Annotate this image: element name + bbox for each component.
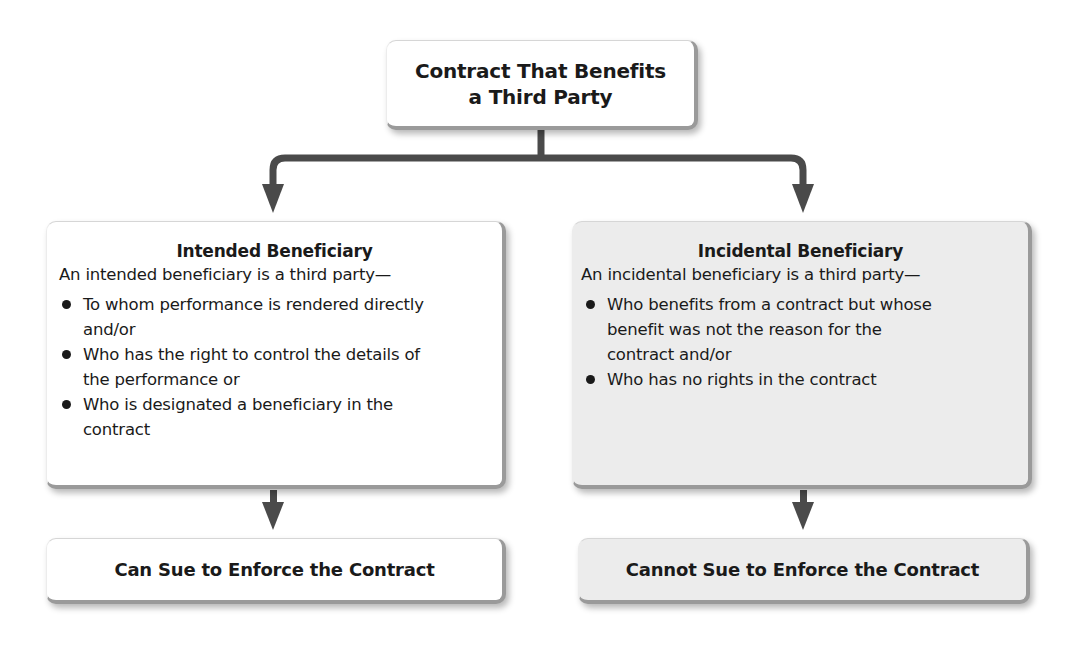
criteria-item: To whom performance is rendered directly… — [59, 292, 439, 342]
criteria-text: Who benefits from a contract but whose b… — [607, 295, 932, 364]
intended-beneficiary-criteria: To whom performance is rendered directly… — [47, 292, 439, 442]
bullet-dot-icon — [586, 375, 595, 384]
root-title-line1: Contract That Benefits — [415, 58, 666, 84]
incidental-beneficiary-criteria: Who benefits from a contract but whose b… — [573, 292, 943, 392]
root-title-line2: a Third Party — [415, 84, 666, 110]
arrow-down-icon — [262, 184, 284, 213]
criteria-item: Who has no rights in the contract — [583, 367, 943, 392]
root-node: Contract That Benefits a Third Party — [386, 40, 698, 130]
outcome-stem-left — [270, 490, 277, 506]
intended-beneficiary-title: Intended Beneficiary — [47, 240, 502, 262]
can-sue-outcome-label: Can Sue to Enforce the Contract — [114, 559, 434, 580]
outcome-stem-right — [800, 490, 807, 506]
bullet-dot-icon — [62, 300, 71, 309]
criteria-item: Who is designated a beneficiary in the c… — [59, 392, 439, 442]
root-title: Contract That Benefits a Third Party — [415, 58, 666, 110]
incidental-beneficiary-node: Incidental Beneficiary An incidental ben… — [572, 221, 1032, 489]
criteria-text: Who is designated a beneficiary in the c… — [83, 395, 393, 439]
incidental-beneficiary-title: Incidental Beneficiary — [573, 240, 1028, 262]
cannot-sue-outcome-label: Cannot Sue to Enforce the Contract — [626, 559, 979, 580]
criteria-item: Who benefits from a contract but whose b… — [583, 292, 943, 367]
branch-bar-line — [273, 158, 803, 190]
criteria-text: To whom performance is rendered directly… — [83, 295, 424, 339]
bullet-dot-icon — [62, 400, 71, 409]
cannot-sue-outcome-node: Cannot Sue to Enforce the Contract — [578, 538, 1030, 604]
arrow-down-icon — [792, 502, 814, 530]
intended-beneficiary-node: Intended Beneficiary An intended benefic… — [46, 221, 506, 489]
intended-beneficiary-intro: An intended beneficiary is a third party… — [47, 264, 502, 286]
criteria-item: Who has the right to control the details… — [59, 342, 439, 392]
bullet-dot-icon — [62, 350, 71, 359]
criteria-text: Who has the right to control the details… — [83, 345, 420, 389]
arrow-down-icon — [792, 184, 814, 213]
criteria-text: Who has no rights in the contract — [607, 370, 876, 389]
incidental-beneficiary-intro: An incidental beneficiary is a third par… — [573, 264, 1028, 286]
arrow-down-icon — [262, 502, 284, 530]
bullet-dot-icon — [586, 300, 595, 309]
can-sue-outcome-node: Can Sue to Enforce the Contract — [46, 538, 506, 604]
